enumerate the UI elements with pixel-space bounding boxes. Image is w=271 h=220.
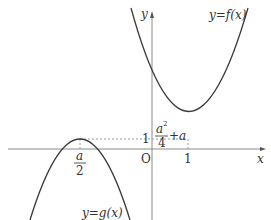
y-axis-arrow-icon — [150, 11, 154, 18]
a-half-denominator: 2 — [76, 164, 84, 178]
g-max-superscript: 2 — [163, 120, 167, 128]
x-tick-1: 1 — [184, 152, 192, 166]
curve-f — [131, 8, 248, 112]
a-half-numerator: a — [76, 149, 83, 163]
g-max-tail: +a — [169, 129, 186, 143]
y-axis-label: y — [140, 7, 148, 21]
function-graph-figure: y x O 1 1 a 2 a 2 4 +a y=f(x) y=g(x) — [0, 0, 271, 220]
x-axis-arrow-icon — [260, 147, 266, 151]
origin-label: O — [141, 152, 151, 166]
y-tick-1: 1 — [142, 132, 150, 146]
x-axis-label: x — [257, 152, 264, 166]
g-max-denominator: 4 — [158, 136, 166, 150]
curve-f-label: y=f(x) — [208, 8, 247, 22]
curve-g-label: y=g(x) — [81, 206, 123, 220]
